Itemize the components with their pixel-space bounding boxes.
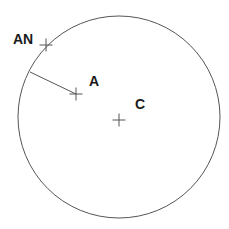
marker-AN: AN <box>13 31 53 52</box>
marker-A: A <box>70 73 100 101</box>
marker-AN-label: AN <box>13 31 33 47</box>
marker-C-label: C <box>135 96 145 112</box>
marker-A-label: A <box>89 73 99 89</box>
marker-C: C <box>113 96 146 127</box>
diagram-canvas: AN A C <box>0 0 229 229</box>
radius-line <box>30 72 76 94</box>
diagram-svg: AN A C <box>0 0 229 229</box>
